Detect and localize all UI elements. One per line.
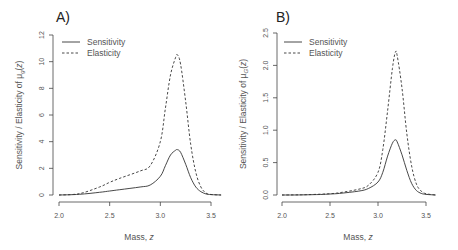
legend-label: Elasticity [87,48,121,58]
y-tick-label: 1.5 [262,93,269,103]
y-tick-label: 4 [38,140,45,144]
y-tick-label: 10 [38,58,45,66]
x-tick-label: 3.0 [373,212,383,219]
x-tick-label: 3.5 [421,212,431,219]
x-tick-label: 2.0 [54,212,64,219]
series-sensitivity [282,140,436,195]
figure: A)0246810122.02.53.03.5Mass, zSensitivit… [0,0,458,250]
y-tick-label: 6 [38,113,45,117]
y-axis-label: Sensitivity / Elasticity of μg(z) [14,60,25,169]
y-tick-label: 12 [38,31,45,39]
x-tick-label: 3.5 [206,212,216,219]
x-tick-label: 2.5 [105,212,115,219]
panel-label: A) [56,9,70,25]
panel-label: B) [276,9,290,25]
x-tick-label: 3.0 [155,212,165,219]
legend-label: Elasticity [309,48,343,58]
panel-b: B)0.00.51.01.52.02.52.02.53.03.5Mass, zS… [238,9,436,242]
legend-label: Sensitivity [87,37,126,47]
y-tick-label: 0.5 [262,158,269,168]
series-elasticity [59,54,221,195]
legend-label: Sensitivity [309,37,348,47]
x-tick-label: 2.0 [277,212,287,219]
y-tick-label: 0.0 [262,190,269,200]
y-tick-label: 2 [38,166,45,170]
series-elasticity [282,51,436,195]
y-tick-label: 2.5 [262,28,269,38]
x-tick-label: 2.5 [325,212,335,219]
x-axis-label: Mass, z [124,232,154,242]
panel-a: A)0246810122.02.53.03.5Mass, zSensitivit… [14,9,221,242]
y-tick-label: 2.0 [262,60,269,70]
x-axis-label: Mass, z [343,232,373,242]
y-tick-label: 8 [38,86,45,90]
series-sensitivity [59,149,221,195]
y-axis-label: Sensitivity / Elasticity of μG(z) [238,59,249,169]
y-tick-label: 0 [38,193,45,197]
y-tick-label: 1.0 [262,125,269,135]
